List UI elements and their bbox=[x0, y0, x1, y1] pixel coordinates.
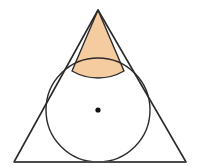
geometry-figure-container bbox=[0, 0, 198, 167]
geometry-figure-svg bbox=[0, 0, 198, 167]
circle-center-dot bbox=[95, 107, 100, 112]
